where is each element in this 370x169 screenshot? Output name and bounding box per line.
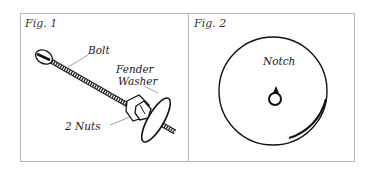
figure-1-panel: Fig. 1 Bolt Fender Washer 2 Nuts (20, 13, 188, 162)
bolt-assembly-illustration (20, 13, 188, 162)
figure-2-label: Fig. 2 (194, 17, 226, 30)
figure-1-label: Fig. 1 (25, 17, 57, 30)
fender-washer-callout-line2: Washer (118, 75, 158, 87)
nuts-callout: 2 Nuts (65, 120, 101, 132)
fender-washer-callout-line1: Fender (116, 63, 154, 75)
figure-2-panel: Fig. 2 Notch (189, 13, 355, 162)
bolt-callout: Bolt (88, 44, 110, 56)
washer-notch-illustration (189, 13, 355, 162)
notch-callout: Notch (263, 55, 295, 67)
